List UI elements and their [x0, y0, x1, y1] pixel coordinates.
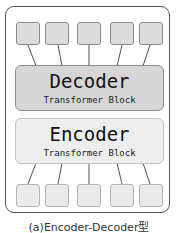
input-token-1 — [16, 184, 40, 207]
figure-caption: (a)Encoder-Decoder型 — [0, 218, 178, 233]
encoder-subtitle: Transformer Block — [16, 147, 163, 159]
decoder-subtitle: Transformer Block — [16, 94, 163, 106]
output-token-5 — [139, 22, 163, 45]
decoder-title: Decoder — [16, 70, 163, 92]
encoder-title: Encoder — [16, 123, 163, 145]
output-token-2 — [45, 22, 69, 45]
output-token-4 — [110, 22, 134, 45]
encoder-block: Encoder Transformer Block — [15, 118, 164, 164]
decoder-block: Decoder Transformer Block — [15, 65, 164, 111]
input-token-3 — [77, 184, 101, 207]
input-token-4 — [110, 184, 134, 207]
output-token-1 — [16, 22, 40, 45]
input-token-2 — [45, 184, 69, 207]
output-token-3 — [77, 22, 101, 45]
input-token-5 — [139, 184, 163, 207]
